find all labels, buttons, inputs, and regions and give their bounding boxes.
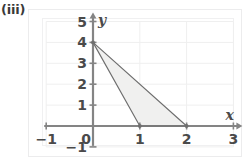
x-tick-label: −1 <box>33 132 59 146</box>
y-tick-label: 5 <box>57 15 87 29</box>
y-tick-label: 3 <box>57 56 87 70</box>
y-tick-label: 1 <box>57 98 87 112</box>
y-tick-label: 2 <box>57 77 87 91</box>
vertex-1-0 <box>138 124 142 128</box>
y-axis-label: y <box>98 13 106 27</box>
vertex-2-0 <box>185 124 189 128</box>
x-tick-label: 3 <box>220 132 245 146</box>
y-axis-arrow-icon <box>90 13 97 19</box>
x-tick-label: 1 <box>127 132 153 146</box>
y-tick-label: 4 <box>57 35 87 49</box>
x-axis-label: x <box>225 108 233 122</box>
vertex-0-4 <box>91 41 95 45</box>
x-tick-label: 2 <box>174 132 200 146</box>
x-axis-arrow-icon <box>236 123 242 130</box>
y-tick-label: −1 <box>57 140 87 154</box>
